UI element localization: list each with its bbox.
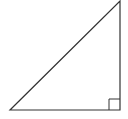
right-angle-marker [109,99,120,110]
right-triangle-diagram [0,0,128,119]
triangle [10,1,120,110]
